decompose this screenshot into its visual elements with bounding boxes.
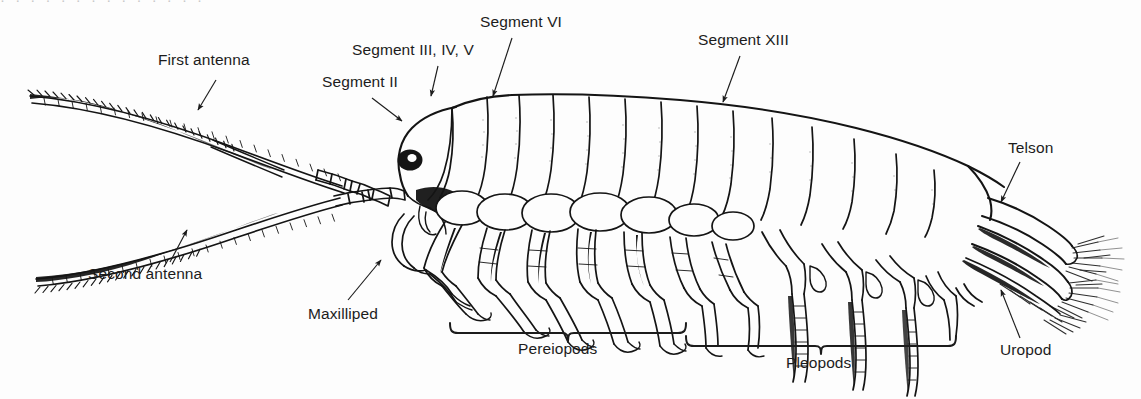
pereiopod-7 [712,242,764,357]
label-first-antenna: First antenna [158,52,250,68]
label-segment-vi: Segment VI [480,14,562,30]
label-segment-iii-iv-v: Segment III, IV, V [352,42,474,58]
crustacean-anatomy-figure: · · · · · · · · · · · · · · [0,0,1141,399]
first-antenna-drawing [28,90,390,206]
eye [398,150,423,171]
pleopod-5 [956,284,982,306]
brace-pereiopods [450,323,686,341]
pleopods [762,230,982,396]
label-segment-ii: Segment II [322,74,398,90]
telson-uropod [962,198,1124,334]
label-segment-xiii: Segment XIII [698,32,789,48]
leader-lines [170,38,1020,338]
label-pleopods: Pleopods [786,355,851,371]
pereiopod-6 [670,237,722,356]
pleopod-3 [876,256,934,396]
label-telson: Telson [1008,140,1053,156]
pereiopod-5 [624,232,686,354]
pereiopods [424,222,764,357]
label-pereiopods: Pereiopods [518,341,597,357]
brace-pleopods [686,336,956,354]
pereiopod-1 [424,222,491,321]
pereiopod-2 [478,228,550,338]
label-second-antenna: Second antenna [88,266,202,282]
label-uropod: Uropod [1000,342,1051,358]
label-maxilliped: Maxilliped [308,306,378,322]
